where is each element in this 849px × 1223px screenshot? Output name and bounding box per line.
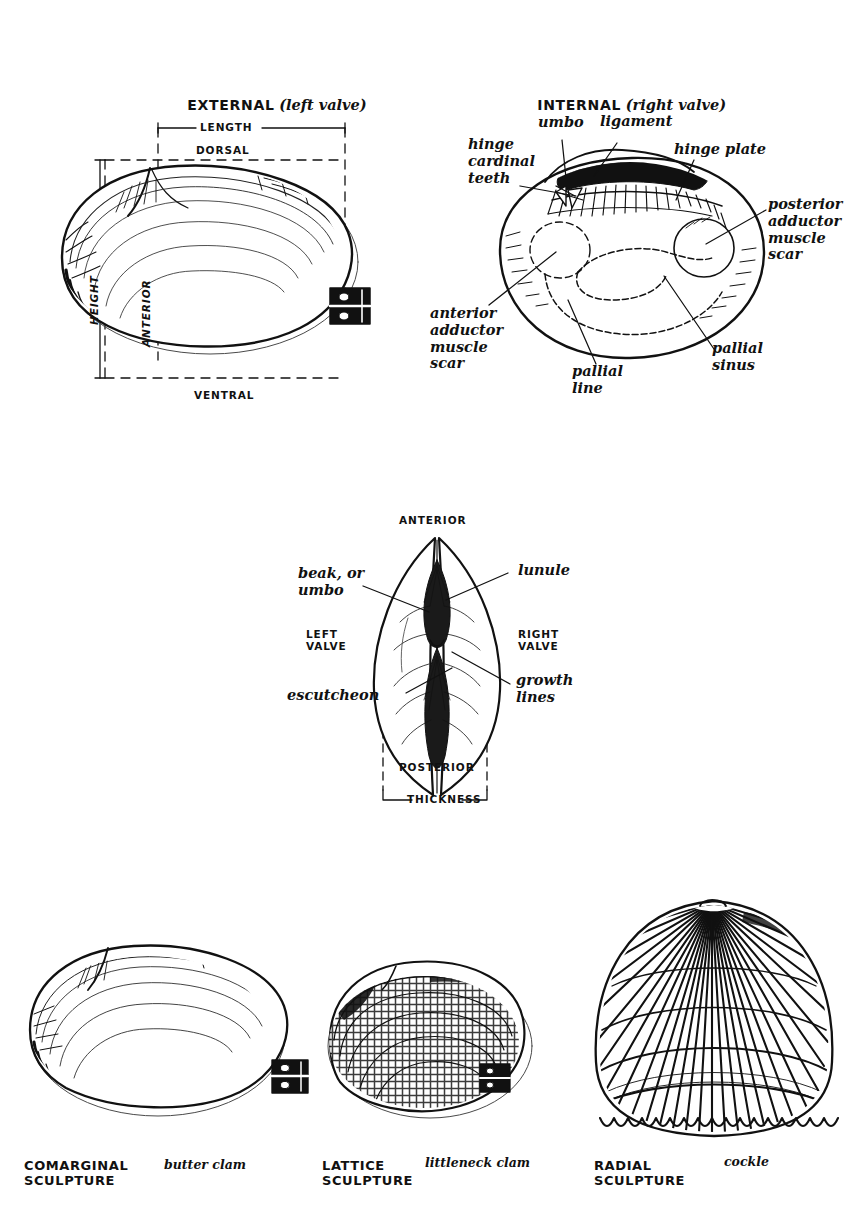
illustration-layer — [0, 0, 849, 1223]
sculpture-type-radial: RADIAL SCULPTURE — [594, 1158, 685, 1188]
butter-clam-drawing — [30, 946, 308, 1121]
internal-label-hinge-plate: hinge plate — [674, 141, 766, 158]
external-figure-title: EXTERNAL (left valve) — [178, 80, 367, 114]
dorsal-label-left-valve: LEFT VALVE — [306, 628, 347, 652]
internal-title-paren: (right valve) — [626, 96, 726, 113]
dorsal-label-growth-lines: growth lines — [516, 672, 573, 706]
internal-valve-drawing — [500, 150, 764, 358]
internal-label-ligament: ligament — [600, 113, 672, 130]
internal-label-umbo: umbo — [538, 114, 584, 131]
external-title-paren: (left valve) — [279, 96, 366, 113]
sculpture-type-lattice: LATTICE SCULPTURE — [322, 1158, 413, 1188]
littleneck-clam-drawing — [328, 958, 532, 1121]
dorsal-label-escutcheon: escutcheon — [287, 687, 379, 704]
siphon-notch — [330, 288, 370, 324]
sculpture-species-butter-clam: butter clam — [164, 1158, 246, 1173]
dorsal-label-lunule: lunule — [518, 562, 570, 579]
internal-figure-title: INTERNAL (right valve) — [528, 80, 726, 114]
dorsal-label-right-valve: RIGHT VALVE — [518, 628, 559, 652]
dorsal-label-posterior: POSTERIOR — [399, 761, 475, 773]
internal-label-pallial-line: pallial line — [572, 363, 623, 397]
dorsal-label-beak-or-umbo: beak, or umbo — [298, 565, 364, 599]
anatomy-plate: EXTERNAL (left valve) LENGTH DORSAL HEIG… — [0, 0, 849, 1223]
dorsal-label-thickness: THICKNESS — [407, 793, 481, 805]
sculpture-type-comarginal: COMARGINAL SCULPTURE — [24, 1158, 128, 1188]
external-label-anterior: ANTERIOR — [140, 280, 152, 347]
external-label-dorsal: DORSAL — [196, 144, 250, 156]
internal-label-hinge-cardinal-teeth: hinge cardinal teeth — [468, 136, 535, 186]
internal-title-caps: INTERNAL — [537, 97, 621, 113]
external-valve-drawing — [62, 123, 370, 378]
external-title-caps: EXTERNAL — [187, 97, 274, 113]
internal-label-anterior-adductor: anterior adductor muscle scar — [430, 305, 503, 372]
external-label-length: LENGTH — [200, 121, 252, 133]
dorsal-label-anterior: ANTERIOR — [399, 514, 466, 526]
external-label-height: HEIGHT — [88, 275, 100, 325]
sculpture-species-cockle: cockle — [724, 1155, 769, 1170]
internal-label-posterior-adductor: posterior adductor muscle scar — [768, 196, 842, 263]
sculpture-species-littleneck-clam: littleneck clam — [425, 1156, 530, 1171]
cockle-drawing — [592, 896, 838, 1150]
external-label-ventral: VENTRAL — [194, 389, 254, 401]
internal-label-pallial-sinus: pallial sinus — [712, 340, 763, 374]
